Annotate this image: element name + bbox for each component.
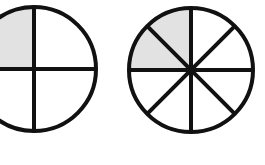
circle-eighths: [129, 8, 253, 132]
fraction-circles-diagram: [0, 0, 265, 165]
circle-quarters: [0, 7, 96, 131]
